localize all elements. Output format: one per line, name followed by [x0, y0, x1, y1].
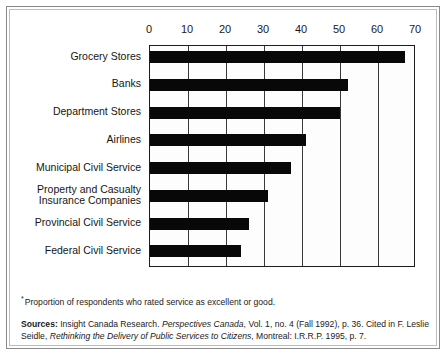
sources-part3: , Montreal: I.R.R.P. 1995, p. 7. [251, 331, 366, 341]
sources-label: Sources: [21, 319, 58, 329]
footnote-text: Proportion of respondents who rated serv… [25, 297, 275, 307]
figure-container: 010203040506070 Grocery StoresBanksDepar… [0, 0, 447, 357]
bar [150, 190, 268, 202]
bar [150, 107, 340, 119]
category-label: Federal Civil Service [13, 245, 141, 257]
bar-chart: 010203040506070 Grocery StoresBanksDepar… [7, 7, 441, 289]
x-axis-tick-labels: 010203040506070 [7, 23, 441, 39]
category-label: Banks [13, 78, 141, 90]
bar-row [150, 157, 414, 185]
bar [150, 218, 249, 230]
bar-row [150, 74, 414, 102]
category-label: Provincial Civil Service [13, 217, 141, 229]
bar-row [150, 240, 414, 268]
bar-row [150, 102, 414, 130]
bar-rows [150, 46, 414, 266]
x-axis-tick-label-0: 0 [146, 23, 152, 35]
sources-part1: Insight Canada Research. [58, 319, 162, 329]
bar [150, 162, 291, 174]
bar [150, 134, 306, 146]
notes-block: *Proportion of respondents who rated ser… [21, 293, 431, 342]
bar-row [150, 185, 414, 213]
sources-italic-title-2: Rethinking the Delivery of Public Servic… [50, 331, 252, 341]
x-axis-tick-label-70: 70 [409, 23, 421, 35]
x-axis-tick-label-40: 40 [295, 23, 307, 35]
category-label: Airlines [13, 134, 141, 146]
bar-row [150, 46, 414, 74]
category-label: Municipal Civil Service [13, 162, 141, 174]
footnote: *Proportion of respondents who rated ser… [21, 293, 431, 308]
category-axis-labels: Grocery StoresBanksDepartment StoresAirl… [13, 45, 147, 267]
footnote-marker: * [21, 295, 24, 302]
x-axis-tick-label-20: 20 [219, 23, 231, 35]
sources-line: Sources: Insight Canada Research. Perspe… [21, 318, 431, 342]
bar [150, 245, 241, 257]
bar-row [150, 213, 414, 241]
bar-row [150, 129, 414, 157]
x-axis-tick-label-10: 10 [181, 23, 193, 35]
bar [150, 51, 405, 63]
category-label: Department Stores [13, 106, 141, 118]
figure-frame: 010203040506070 Grocery StoresBanksDepar… [6, 6, 440, 349]
category-label: Property and Casualty Insurance Companie… [13, 184, 141, 207]
plot-area [149, 45, 415, 267]
x-axis-tick-label-30: 30 [257, 23, 269, 35]
x-axis-tick-label-50: 50 [333, 23, 345, 35]
x-axis-tick-label-60: 60 [371, 23, 383, 35]
category-label: Grocery Stores [13, 51, 141, 63]
sources-italic-title-1: Perspectives Canada [162, 319, 244, 329]
notes-divider [17, 288, 429, 289]
bar [150, 79, 348, 91]
